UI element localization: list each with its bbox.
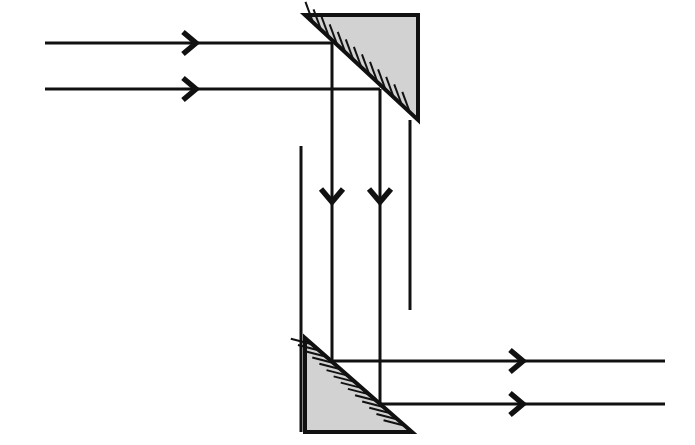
optics-diagram-svg <box>0 0 695 445</box>
ray-diagram-canvas <box>0 0 695 445</box>
